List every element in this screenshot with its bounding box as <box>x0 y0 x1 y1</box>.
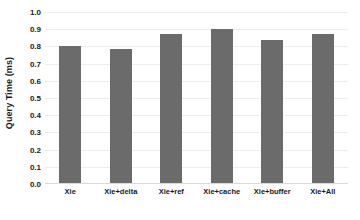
x-axis-tick-label: Xie+ref <box>159 187 184 196</box>
y-axis-tick-label: 0.8 <box>30 42 41 51</box>
x-tick-slot: Xie+delta <box>96 187 147 207</box>
y-axis-tick-label: 0.1 <box>30 162 41 171</box>
y-axis-tick-label: 0.3 <box>30 128 41 137</box>
plot-area <box>45 12 348 184</box>
x-tick-slot: Xie+All <box>298 187 349 207</box>
y-axis-tick-label: 0.4 <box>30 111 41 120</box>
bar-slot <box>146 12 197 184</box>
x-tick-slot: Xie+buffer <box>247 187 298 207</box>
x-tick-slot: Xie+cache <box>197 187 248 207</box>
bar[interactable] <box>261 40 283 184</box>
bar-slot <box>298 12 349 184</box>
y-axis-tick-labels: 1.00.90.80.70.60.50.40.30.20.10.0 <box>18 12 44 184</box>
y-axis-tick-label: 0.6 <box>30 76 41 85</box>
y-axis-title: Query Time (ms) <box>0 0 18 186</box>
bar-slot <box>45 12 96 184</box>
bar[interactable] <box>312 34 334 185</box>
bar-chart: Query Time (ms) 1.00.90.80.70.60.50.40.3… <box>0 0 360 220</box>
y-axis-tick-label: 0.0 <box>30 180 41 189</box>
y-axis-tick-label: 0.2 <box>30 145 41 154</box>
x-axis-tick-label: Xie+cache <box>203 187 240 196</box>
x-tick-slot: Xie <box>45 187 96 207</box>
y-axis-title-text: Query Time (ms) <box>4 57 14 129</box>
x-axis-tick-label: Xie+buffer <box>254 187 291 196</box>
x-tick-slot: Xie+ref <box>146 187 197 207</box>
y-axis-tick-label: 0.5 <box>30 94 41 103</box>
bar-slot <box>197 12 248 184</box>
bars-layer <box>45 12 348 184</box>
x-axis-tick-label: Xie+delta <box>104 187 137 196</box>
y-axis-tick-label: 1.0 <box>30 8 41 17</box>
bar[interactable] <box>59 46 81 184</box>
x-axis-tick-labels: XieXie+deltaXie+refXie+cacheXie+bufferXi… <box>45 187 348 207</box>
bar[interactable] <box>160 34 182 184</box>
bar-slot <box>247 12 298 184</box>
x-axis-tick-label: Xie <box>65 187 76 196</box>
x-axis-baseline <box>45 183 348 184</box>
x-axis-tick-label: Xie+All <box>310 187 335 196</box>
bar[interactable] <box>110 49 132 184</box>
y-axis-tick-label: 0.7 <box>30 59 41 68</box>
bar[interactable] <box>211 29 233 184</box>
bar-slot <box>96 12 147 184</box>
y-axis-tick-label: 0.9 <box>30 25 41 34</box>
